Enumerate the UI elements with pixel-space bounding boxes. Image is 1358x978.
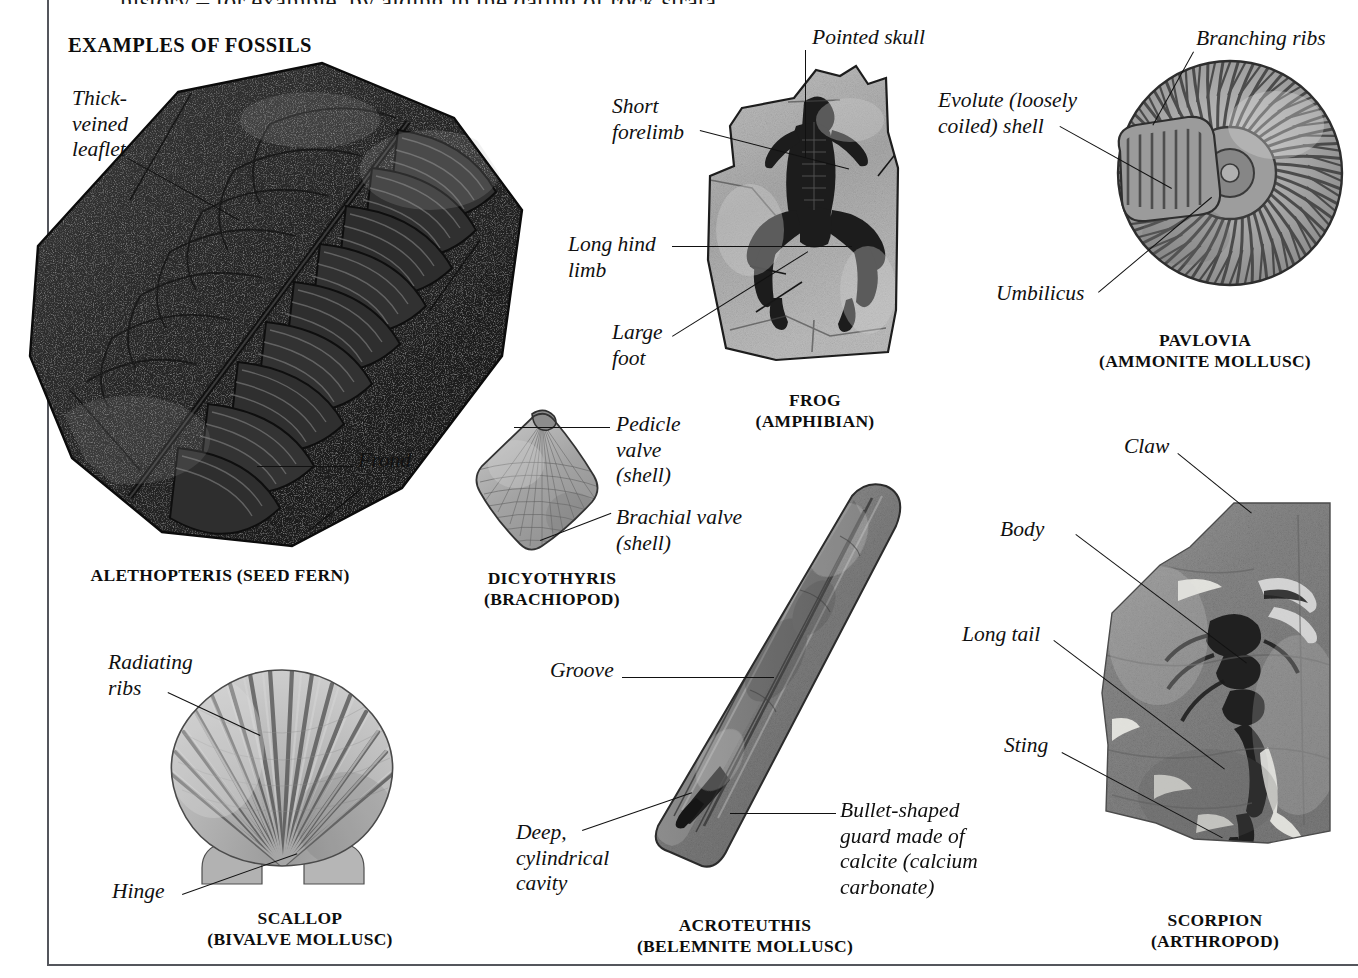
label-radiating-ribs: Radiating ribs: [108, 650, 193, 701]
caption-alethopteris: ALETHOPTERIS (SEED FERN): [60, 565, 380, 586]
scorpion-fossil-image: [1098, 495, 1334, 877]
label-bullet-shaped-guard: Bullet-shaped guard made of calcite (cal…: [840, 798, 978, 900]
label-frond: Frond: [358, 448, 411, 474]
leader-bullet-shaped-guard: [730, 813, 836, 814]
figure-page: history – for example, by aiding in the …: [0, 0, 1358, 978]
label-short-forelimb: Short forelimb: [612, 94, 684, 145]
label-umbilicus: Umbilicus: [996, 281, 1084, 307]
label-thick-veined-leaflet: Thick- veined leaflet: [72, 86, 128, 163]
caption-frog: FROG (AMPHIBIAN): [700, 390, 930, 432]
section-title: EXAMPLES OF FOSSILS: [68, 34, 312, 57]
label-claw: Claw: [1124, 434, 1169, 460]
scallop-fossil-image: [160, 670, 410, 896]
label-groove: Groove: [550, 658, 614, 684]
label-pointed-skull: Pointed skull: [812, 25, 925, 51]
pavlovia-fossil-image: [1080, 55, 1348, 317]
caption-pavlovia: PAVLOVIA (AMMONITE MOLLUSC): [1060, 330, 1350, 372]
caption-acroteuthis: ACROTEUTHIS (BELEMNITE MOLLUSC): [600, 915, 890, 957]
label-long-hind-limb: Long hind limb: [568, 232, 656, 283]
leader-groove: [622, 677, 774, 678]
label-hinge: Hinge: [112, 879, 165, 905]
caption-scallop: SCALLOP (BIVALVE MOLLUSC): [180, 908, 420, 950]
label-sting: Sting: [1004, 733, 1048, 759]
label-branching-ribs: Branching ribs: [1196, 26, 1326, 52]
label-large-foot: Large foot: [612, 320, 663, 371]
label-long-tail: Long tail: [962, 622, 1040, 648]
label-deep-cylindrical-cavity: Deep, cylindrical cavity: [516, 820, 609, 897]
leader-pointed-skull: [805, 50, 806, 158]
dicyothyris-fossil-image: [468, 408, 618, 568]
leader-long-hind-limb: [672, 246, 852, 247]
leader-frond: [257, 466, 353, 467]
label-evolute-shell: Evolute (loosely coiled) shell: [938, 88, 1077, 139]
label-body: Body: [1000, 517, 1044, 543]
caption-scorpion: SCORPION (ARTHROPOD): [1090, 910, 1340, 952]
leader-pedicle-valve: [514, 427, 610, 428]
cut-off-body-text: history – for example, by aiding in the …: [120, 0, 1120, 4]
label-pedicle-valve: Pedicle valve (shell): [616, 412, 680, 489]
frog-fossil-image: [690, 60, 940, 380]
bottom-horizontal-rule: [47, 964, 1358, 966]
